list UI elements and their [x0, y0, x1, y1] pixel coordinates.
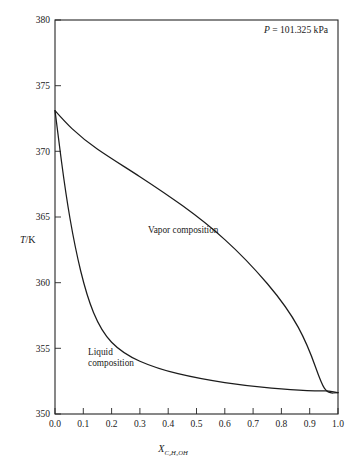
x-axis-title-subscript: C₂H₅OH	[164, 449, 189, 456]
x-tick-label: 0.1	[77, 419, 89, 429]
x-tick-label: 0.8	[275, 419, 287, 429]
y-tick-label: 375	[36, 81, 51, 91]
liquid-curve-label-line1: Liquid	[88, 347, 113, 357]
y-tick-label: 360	[36, 278, 51, 288]
x-tick-label: 0.0	[49, 419, 61, 429]
y-axis-tick-labels: 350 355 360 365 370 375 380	[36, 15, 51, 419]
liquid-curve-label-line2: composition	[88, 358, 134, 368]
pressure-value: 101.325 kPa	[280, 24, 329, 35]
x-tick-label: 0.5	[191, 419, 203, 429]
x-tick-label: 0.2	[106, 419, 118, 429]
vapor-curve-label: Vapor composition	[148, 225, 219, 235]
y-tick-label: 365	[36, 212, 51, 222]
x-axis-title: XC₂H₅OH	[157, 443, 189, 456]
pressure-equals: =	[270, 24, 280, 35]
phase-diagram-figure: 350 355 360 365 370 375 380 0.0 0.1 0	[0, 0, 357, 463]
y-tick-label: 355	[36, 344, 51, 354]
x-tick-label: 0.3	[134, 419, 146, 429]
y-tick-label: 350	[36, 409, 51, 419]
x-tick-label: 0.6	[219, 419, 231, 429]
y-tick-label: 370	[36, 147, 51, 157]
y-axis-title: T/K	[20, 234, 36, 245]
pressure-annotation: P = 101.325 kPa	[263, 24, 329, 35]
txy-phase-diagram-plot: 350 355 360 365 370 375 380 0.0 0.1 0	[0, 0, 357, 463]
x-tick-label: 0.4	[162, 419, 174, 429]
y-axis-title-rest: /K	[26, 234, 37, 245]
x-tick-label: 1.0	[332, 419, 344, 429]
x-tick-label: 0.9	[304, 419, 316, 429]
x-axis-tick-labels: 0.0 0.1 0.2 0.3 0.4 0.5 0.6 0.7 0.8 0.9 …	[49, 419, 344, 429]
x-tick-label: 0.7	[247, 419, 259, 429]
y-tick-label: 380	[36, 15, 51, 25]
